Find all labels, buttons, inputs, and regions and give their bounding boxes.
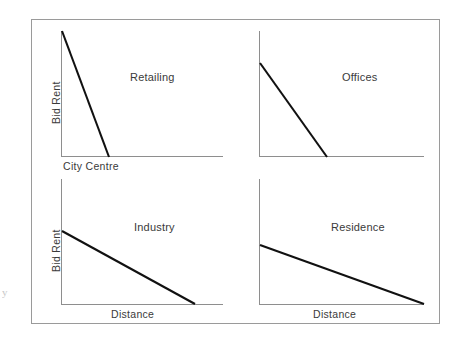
y-axis-label-retailing: Bid Rent — [50, 81, 62, 124]
panel-title-offices: Offices — [342, 71, 377, 83]
offices-curve — [237, 20, 441, 165]
panel-retailing: Retailing Bid Rent City Centre — [32, 20, 237, 165]
panel-residence: Residence Distance — [237, 165, 441, 325]
industry-curve — [32, 165, 237, 325]
bid-rent-figure: y Retailing Bid Rent City Centre Offices — [0, 0, 466, 343]
y-axis-label-industry: Bid Rent — [50, 229, 62, 272]
panel-offices: Offices — [237, 20, 441, 165]
residence-curve — [237, 165, 441, 325]
x-axis-label-industry: Distance — [111, 308, 154, 320]
x-axis-label-residence: Distance — [313, 308, 356, 320]
retailing-curve — [32, 20, 237, 165]
panel-industry: Industry Bid Rent Distance — [32, 165, 237, 325]
panel-title-industry: Industry — [134, 221, 175, 233]
panel-title-residence: Residence — [331, 221, 385, 233]
figure-border: Retailing Bid Rent City Centre Offices I… — [31, 19, 440, 324]
panel-title-retailing: Retailing — [130, 71, 175, 83]
margin-text-fragment: y — [2, 286, 11, 302]
